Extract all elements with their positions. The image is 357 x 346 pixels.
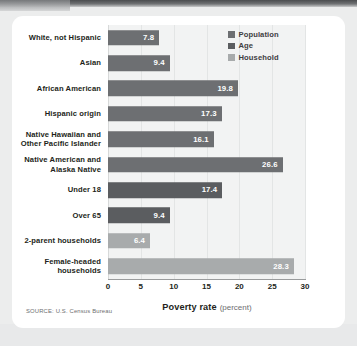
bar-value-label: 19.8 (217, 84, 233, 93)
bar-value-label: 9.4 (154, 211, 165, 220)
bar-value-label: 17.3 (201, 109, 217, 118)
category-label-line: White, not Hispanic (0, 33, 101, 42)
category-label-line: households (0, 266, 101, 275)
legend-item[interactable]: Population (228, 30, 279, 39)
category-label-line: Hispanic origin (0, 109, 101, 118)
category-label-line: Female-headed (0, 257, 101, 266)
legend-item[interactable]: Age (228, 41, 279, 50)
bar-row: Asian9.4 (12, 50, 345, 75)
chart-card: White, not Hispanic7.8Asian9.4African Am… (12, 16, 345, 328)
category-label: African American (0, 84, 101, 93)
chart-legend: PopulationAgeHousehold (228, 30, 279, 64)
bar[interactable]: 6.4 (108, 233, 150, 249)
bar[interactable]: 7.8 (108, 30, 159, 46)
legend-label: Age (239, 41, 254, 50)
category-label-line: Asian (0, 58, 101, 67)
x-axis-title-main: Poverty rate (162, 302, 216, 312)
legend-item[interactable]: Household (228, 53, 279, 62)
x-axis-tick-label: 30 (301, 282, 310, 291)
bar-row: White, not Hispanic7.8 (12, 25, 345, 50)
category-label-line: Over 65 (0, 211, 101, 220)
bar[interactable]: 17.3 (108, 106, 222, 122)
x-axis-title-unit: (percent) (220, 303, 252, 312)
bar-value-label: 6.4 (134, 236, 145, 245)
bar-value-label: 28.3 (273, 262, 289, 271)
category-label: Asian (0, 58, 101, 67)
category-label-line: Native American and (0, 155, 101, 164)
bar-value-label: 16.1 (193, 135, 209, 144)
category-label: Female-headedhouseholds (0, 257, 101, 276)
category-label: Native American andAlaska Native (0, 155, 101, 174)
bar[interactable]: 28.3 (108, 259, 294, 275)
bar[interactable]: 9.4 (108, 55, 170, 71)
bar-row: Female-headedhouseholds28.3 (12, 254, 345, 279)
bar-row: African American19.8 (12, 76, 345, 101)
category-label: Over 65 (0, 211, 101, 220)
category-label-line: African American (0, 84, 101, 93)
category-label-line: Native Hawaiian and (0, 130, 101, 139)
poverty-rate-bar-chart: White, not Hispanic7.8Asian9.4African Am… (12, 16, 345, 328)
legend-label: Population (239, 30, 279, 39)
x-axis-tick-label: 0 (106, 282, 110, 291)
category-label-line: Other Pacific Islander (0, 139, 101, 148)
legend-swatch-icon (228, 31, 235, 38)
category-label: Under 18 (0, 185, 101, 194)
bar-row: 2-parent households6.4 (12, 228, 345, 253)
bar[interactable]: 17.4 (108, 182, 222, 198)
bar[interactable]: 16.1 (108, 132, 214, 148)
bar-value-label: 9.4 (154, 59, 165, 68)
x-axis-tick-label: 10 (169, 282, 178, 291)
x-axis-tick-label: 5 (139, 282, 143, 291)
bar-value-label: 26.6 (262, 160, 278, 169)
bar-value-label: 17.4 (202, 186, 218, 195)
category-label: Native Hawaiian andOther Pacific Islande… (0, 130, 101, 149)
category-label: 2-parent households (0, 236, 101, 245)
bar[interactable]: 19.8 (108, 81, 238, 97)
bar-value-label: 7.8 (143, 33, 154, 42)
category-label: Hispanic origin (0, 109, 101, 118)
bar-row: Under 1817.4 (12, 177, 345, 202)
category-label-line: Alaska Native (0, 165, 101, 174)
bar-row: Native American andAlaska Native26.6 (12, 152, 345, 177)
top-decoration-band-left (0, 0, 70, 11)
category-label: White, not Hispanic (0, 33, 101, 42)
legend-swatch-icon (228, 54, 235, 61)
bar-row: Over 659.4 (12, 203, 345, 228)
legend-swatch-icon (228, 43, 235, 50)
bar-row: Hispanic origin17.3 (12, 101, 345, 126)
source-note: SOURCE: U.S. Census Bureau (26, 308, 112, 314)
x-axis-tick-label: 20 (235, 282, 244, 291)
x-axis-tick-label: 15 (202, 282, 211, 291)
bar-rows: White, not Hispanic7.8Asian9.4African Am… (12, 25, 345, 279)
x-axis-tick-label: 25 (268, 282, 277, 291)
bar[interactable]: 26.6 (108, 157, 283, 173)
legend-label: Household (239, 53, 279, 62)
bar[interactable]: 9.4 (108, 208, 170, 224)
x-axis-title: Poverty rate(percent) (108, 296, 306, 314)
bar-row: Native Hawaiian andOther Pacific Islande… (12, 127, 345, 152)
category-label-line: 2-parent households (0, 236, 101, 245)
x-axis-line (108, 279, 306, 280)
category-label-line: Under 18 (0, 185, 101, 194)
